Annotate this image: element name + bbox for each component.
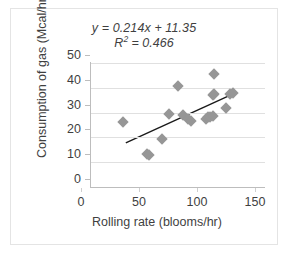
regression-annotation: y = 0.214x + 11.35 R2 = 0.466 [11, 21, 277, 51]
gridline-horizontal [91, 162, 265, 163]
r-squared-annotation: R2 = 0.466 [11, 36, 277, 51]
y-axis-tick [85, 179, 90, 180]
x-axis-tick-label: 100 [177, 195, 217, 209]
y-axis-tick-label: 10 [55, 148, 81, 160]
x-axis-tick [197, 188, 198, 192]
plot-area [91, 63, 265, 187]
x-axis-title: Rolling rate (blooms/hr) [31, 215, 283, 229]
gridline-horizontal [91, 187, 265, 188]
y-axis-tick-label: 30 [55, 99, 81, 111]
regression-equation: y = 0.214x + 11.35 [11, 21, 277, 36]
gridline-horizontal [91, 63, 265, 64]
y-axis-tick-label: 40 [55, 74, 81, 86]
y-axis-tick-label: 0 [55, 173, 81, 185]
y-axis-tick [85, 55, 90, 56]
r-squared-value: = 0.466 [128, 36, 174, 50]
gridline-horizontal [91, 137, 265, 138]
y-axis-tick [85, 105, 90, 106]
chart-container: y = 0.214x + 11.35 R2 = 0.466 0102030405… [10, 8, 278, 245]
x-axis-tick [81, 188, 82, 192]
y-axis-tick-label: 20 [55, 123, 81, 135]
x-axis-tick-label: 50 [119, 195, 159, 209]
x-axis-tick-label: 0 [61, 195, 101, 209]
y-axis-tick [85, 154, 90, 155]
y-axis-tick [85, 129, 90, 130]
x-axis-tick [255, 188, 256, 192]
y-axis-tick [85, 80, 90, 81]
x-axis-tick [139, 188, 140, 192]
y-axis-tick-label: 50 [55, 49, 81, 61]
y-axis-title: Consumption of gas (Mcal/hr) [35, 0, 49, 158]
x-axis-tick-label: 150 [235, 195, 275, 209]
